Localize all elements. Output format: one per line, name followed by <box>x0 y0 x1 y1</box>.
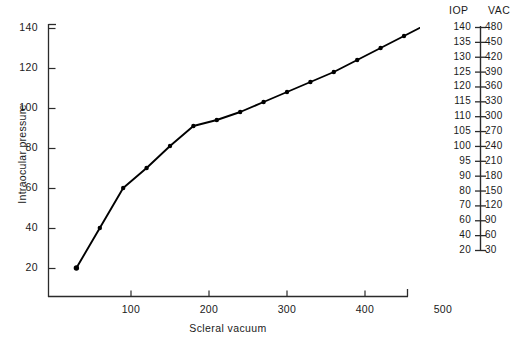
nomogram-iop-value: 20 <box>440 244 471 255</box>
x-axis-tick-label: 100 <box>111 303 151 315</box>
data-point-marker <box>332 70 336 74</box>
nomogram-vac-value: 420 <box>485 51 513 62</box>
y-axis-tick-label: 20 <box>8 261 38 273</box>
data-point-marker <box>261 100 265 104</box>
nomogram-iop-value: 105 <box>440 125 471 136</box>
nomogram-iop-value: 135 <box>440 36 471 47</box>
chart-figure: 20406080100120140 100200300400500 Intrao… <box>0 0 531 355</box>
nomogram-row: 140480 <box>440 21 531 32</box>
data-point-marker <box>74 265 79 270</box>
data-point-marker <box>191 124 195 128</box>
nomogram-vac-value: 210 <box>485 155 513 166</box>
nomogram-iop-value: 130 <box>440 51 471 62</box>
data-point-marker <box>215 118 219 122</box>
data-point-marker <box>285 90 289 94</box>
nomogram-iop-value: 125 <box>440 66 471 77</box>
nomogram-scale: IOP VAC 14048013545013042012539012036011… <box>440 0 531 355</box>
nomogram-vac-value: 240 <box>485 140 513 151</box>
nomogram-iop-value: 80 <box>440 185 471 196</box>
nomogram-row: 110300 <box>440 110 531 121</box>
nomogram-row: 105270 <box>440 125 531 136</box>
data-point-marker <box>402 34 406 38</box>
nomogram-iop-value: 110 <box>440 110 471 121</box>
nomogram-iop-value: 70 <box>440 199 471 210</box>
y-axis-ticks <box>49 29 56 269</box>
nomogram-vac-value: 300 <box>485 110 513 121</box>
data-point-marker <box>144 166 148 170</box>
nomogram-row: 95210 <box>440 155 531 166</box>
data-point-marker <box>308 80 312 84</box>
nomogram-row: 115330 <box>440 95 531 106</box>
nomogram-iop-value: 115 <box>440 95 471 106</box>
x-axis-ticks <box>131 291 365 297</box>
x-axis-tick-label: 300 <box>267 303 307 315</box>
nomogram-vac-value: 330 <box>485 95 513 106</box>
nomogram-row: 100240 <box>440 140 531 151</box>
nomogram-row: 130420 <box>440 51 531 62</box>
data-point-marker <box>168 144 172 148</box>
nomogram-vac-value: 150 <box>485 185 513 196</box>
data-point-marker <box>238 110 242 114</box>
nomogram-vac-value: 360 <box>485 80 513 91</box>
nomogram-vac-value: 270 <box>485 125 513 136</box>
nomogram-iop-value: 60 <box>440 214 471 225</box>
data-line-series-1 <box>76 24 420 268</box>
nomogram-vac-value: 480 <box>485 21 513 32</box>
nomogram-vac-value: 60 <box>485 229 513 240</box>
nomogram-row: 6090 <box>440 214 531 225</box>
data-markers-series-1 <box>74 21 420 270</box>
data-point-marker <box>98 226 102 230</box>
nomogram-vac-value: 30 <box>485 244 513 255</box>
nomogram-iop-value: 100 <box>440 140 471 151</box>
nomogram-iop-value: 40 <box>440 229 471 240</box>
nomogram-row: 70120 <box>440 199 531 210</box>
nomogram-row: 125390 <box>440 66 531 77</box>
nomogram-row: 4060 <box>440 229 531 240</box>
nomogram-row: 120360 <box>440 80 531 91</box>
nomogram-vac-value: 390 <box>485 66 513 77</box>
data-point-marker <box>121 186 125 190</box>
y-axis-title: Intraocular pressure <box>16 84 28 224</box>
plot-area: 20406080100120140 100200300400500 Intrao… <box>0 0 420 355</box>
x-axis-tick-label: 400 <box>345 303 385 315</box>
nomogram-iop-value: 90 <box>440 170 471 181</box>
data-point-marker <box>378 46 382 50</box>
nomogram-iop-value: 140 <box>440 21 471 32</box>
nomogram-iop-value: 95 <box>440 155 471 166</box>
nomogram-vac-value: 180 <box>485 170 513 181</box>
nomogram-row: 90180 <box>440 170 531 181</box>
nomogram-vac-value: 90 <box>485 214 513 225</box>
nomogram-row: 80150 <box>440 185 531 196</box>
nomogram-row: 2030 <box>440 244 531 255</box>
y-axis-tick-label: 120 <box>8 61 38 73</box>
nomogram-vac-value: 450 <box>485 36 513 47</box>
nomogram-iop-value: 120 <box>440 80 471 91</box>
nomogram-vac-value: 120 <box>485 199 513 210</box>
x-axis-tick-label: 200 <box>189 303 229 315</box>
x-axis-title: Scleral vacuum <box>48 322 408 334</box>
data-point-marker <box>355 58 359 62</box>
y-axis-tick-label: 140 <box>8 21 38 33</box>
nomogram-row: 135450 <box>440 36 531 47</box>
axis-lines <box>48 24 408 297</box>
